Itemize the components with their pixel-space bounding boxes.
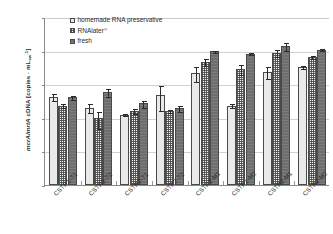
- y-axis-title-superscript: -1: [24, 51, 29, 55]
- error-bar: [125, 114, 126, 118]
- y-axis-title-rest: cDNA [copies · mL: [24, 61, 31, 119]
- error-bar-cap: [204, 66, 209, 67]
- error-bar: [89, 104, 90, 114]
- error-bar-cap: [249, 55, 254, 56]
- error-bar: [267, 67, 268, 80]
- error-bar: [63, 104, 64, 110]
- error-bar-cap: [275, 57, 280, 58]
- error-bar: [179, 106, 180, 113]
- error-bar-cap: [213, 51, 218, 52]
- error-bar: [286, 43, 287, 52]
- error-bar-cap: [320, 49, 325, 50]
- bar: [227, 106, 236, 185]
- legend-label: homemade RNA preservative: [78, 15, 163, 26]
- error-bar: [170, 110, 171, 114]
- bar: [49, 97, 58, 185]
- legend-label: fresh: [78, 36, 92, 47]
- legend-item: fresh: [70, 36, 162, 47]
- bar: [165, 111, 174, 185]
- error-bar: [241, 65, 242, 76]
- error-bar-cap: [142, 108, 147, 109]
- error-bar-cap: [133, 109, 138, 110]
- error-bar-cap: [61, 108, 66, 109]
- error-bar-cap: [71, 96, 76, 97]
- bar: [201, 62, 210, 185]
- bar: [246, 54, 255, 185]
- error-bar-cap: [88, 113, 93, 114]
- error-bar-cap: [194, 82, 199, 83]
- error-bar-cap: [301, 69, 306, 70]
- chart-figure: mcrA/mrtA cDNA [copies · mLsw-1] 1.E+031…: [0, 0, 333, 234]
- error-bar-cap: [178, 106, 183, 107]
- bar: [263, 72, 272, 185]
- legend-swatch-icon: [70, 39, 75, 44]
- y-axis-title-subscript: sw: [27, 55, 32, 61]
- bar: [85, 108, 94, 185]
- error-bar: [134, 109, 135, 115]
- y-axis-tick: [42, 18, 45, 19]
- error-bar-cap: [301, 66, 306, 67]
- error-bar-cap: [142, 101, 147, 102]
- y-axis-tick: [42, 85, 45, 86]
- bar: [281, 46, 290, 185]
- error-bar-cap: [52, 94, 57, 95]
- error-bar-cap: [88, 104, 93, 105]
- bar: [210, 51, 219, 185]
- bar: [130, 111, 139, 185]
- error-bar-cap: [159, 111, 164, 112]
- chart-legend: homemade RNA preservative RNAlater® fres…: [70, 15, 162, 47]
- error-bar-cap: [213, 53, 218, 54]
- x-axis-tick: [116, 181, 117, 185]
- error-bar-cap: [106, 89, 111, 90]
- bar: [58, 106, 67, 185]
- bar: [298, 67, 307, 185]
- x-axis-tick: [81, 181, 82, 185]
- error-bar-cap: [123, 114, 128, 115]
- bar: [308, 57, 317, 185]
- error-bar-cap: [284, 51, 289, 52]
- error-bar-cap: [178, 112, 183, 113]
- error-bar-cap: [106, 97, 111, 98]
- error-bar-cap: [275, 50, 280, 51]
- error-bar-cap: [97, 129, 102, 130]
- error-bar-cap: [133, 114, 138, 115]
- error-bar-cap: [266, 67, 271, 68]
- x-axis-tick: [188, 181, 189, 185]
- error-bar-cap: [239, 75, 244, 76]
- bar: [191, 73, 200, 185]
- legend-item: RNAlater®: [70, 26, 162, 37]
- error-bar: [250, 53, 251, 56]
- error-bar: [303, 66, 304, 70]
- error-bar: [108, 89, 109, 98]
- error-bar-cap: [61, 104, 66, 105]
- y-axis-tick: [42, 119, 45, 120]
- error-bar: [232, 104, 233, 109]
- error-bar: [205, 59, 206, 66]
- legend-swatch-icon: [70, 18, 75, 23]
- error-bar: [53, 94, 54, 102]
- x-axis-tick: [294, 181, 295, 185]
- error-bar-cap: [71, 100, 76, 101]
- error-bar-cap: [159, 86, 164, 87]
- legend-label: RNAlater®: [78, 25, 108, 36]
- error-bar: [196, 67, 197, 83]
- bar: [272, 53, 281, 185]
- error-bar-cap: [230, 104, 235, 105]
- error-bar: [277, 50, 278, 58]
- error-bar-cap: [311, 59, 316, 60]
- error-bar-cap: [204, 59, 209, 60]
- error-bar-cap: [320, 51, 325, 52]
- error-bar-cap: [168, 110, 173, 111]
- error-bar: [143, 101, 144, 109]
- y-axis-tick: [42, 52, 45, 53]
- bar: [120, 115, 129, 185]
- bar: [236, 69, 245, 185]
- error-bar: [322, 49, 323, 52]
- x-axis-tick: [152, 181, 153, 185]
- error-bar-cap: [239, 65, 244, 66]
- error-bar-cap: [284, 43, 289, 44]
- error-bar: [215, 51, 216, 54]
- error-bar-cap: [168, 113, 173, 114]
- y-axis-title-tail: ]: [24, 49, 31, 51]
- y-axis-tick: [42, 186, 45, 187]
